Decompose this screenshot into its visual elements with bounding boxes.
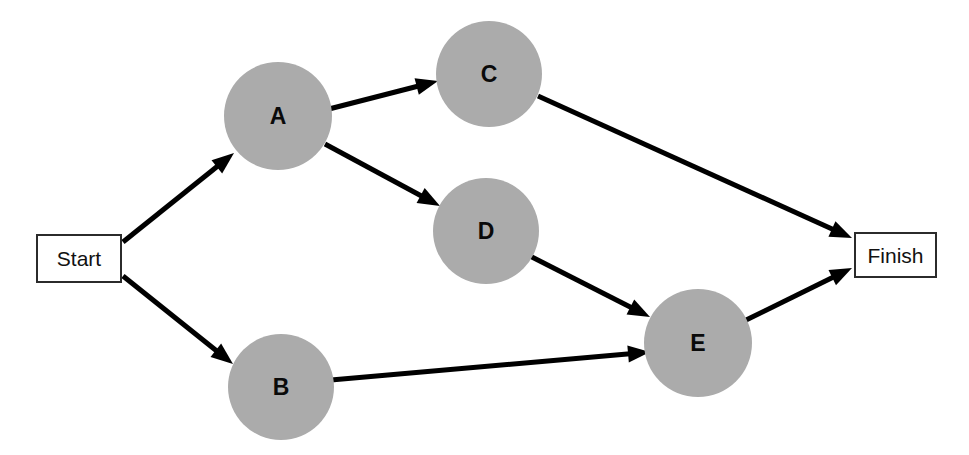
edge-shaft: [329, 86, 419, 109]
node-c-label: C: [481, 63, 498, 86]
arrowhead-icon: [417, 188, 440, 206]
edge-start-a: [123, 153, 234, 242]
arrowhead-icon: [415, 78, 438, 94]
node-d[interactable]: D: [433, 178, 539, 284]
arrowhead-icon: [829, 268, 852, 285]
node-finish-label: Finish: [867, 245, 923, 266]
edge-e-finish: [742, 268, 852, 322]
node-a[interactable]: A: [224, 62, 332, 170]
edge-shaft: [538, 96, 834, 230]
edge-shaft: [528, 255, 632, 308]
edge-shaft: [742, 277, 834, 322]
node-b-label: B: [273, 376, 290, 399]
edge-start-b: [123, 276, 233, 364]
edge-shaft: [123, 276, 217, 352]
node-e[interactable]: E: [644, 289, 752, 397]
node-finish[interactable]: Finish: [854, 232, 937, 278]
node-d-label: D: [478, 220, 495, 243]
edge-d-e: [528, 255, 650, 317]
node-start-label: Start: [57, 248, 101, 269]
node-a-label: A: [270, 105, 287, 128]
edge-shaft: [325, 144, 422, 197]
node-e-label: E: [690, 332, 705, 355]
edge-shaft: [331, 354, 630, 380]
arrowhead-icon: [828, 221, 852, 238]
edge-a-d: [325, 144, 440, 206]
arrowhead-icon: [627, 299, 650, 317]
activity-network-diagram: Start A B C D E Finish: [0, 0, 969, 455]
edge-b-e: [331, 345, 650, 380]
edge-c-finish: [538, 96, 852, 238]
edge-shaft: [123, 166, 218, 242]
edge-a-c: [329, 78, 438, 109]
node-c[interactable]: C: [436, 21, 542, 127]
node-start[interactable]: Start: [36, 234, 122, 283]
node-b[interactable]: B: [228, 334, 334, 440]
